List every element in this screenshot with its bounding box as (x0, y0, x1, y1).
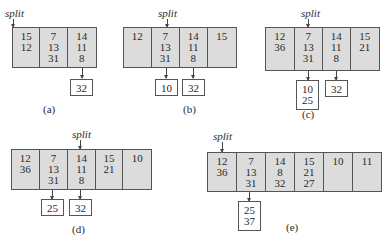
bucket-value: 31 (40, 53, 66, 64)
bucket-0: 12 (124, 28, 152, 67)
split-arrow-icon (13, 19, 14, 27)
bucket-array: 15 12 7 13 31 14 11 8 (12, 27, 97, 68)
bucket-4: 10 (123, 150, 151, 189)
bucket-2: 14 11 8 (68, 28, 96, 67)
bucket-3: 15 (208, 28, 236, 67)
caption-e: (e) (286, 221, 298, 233)
overflow-arrow-icon (52, 190, 53, 199)
overflow-bucket: 32 (325, 80, 348, 97)
split-arrow-icon (222, 142, 223, 152)
split-label: split (158, 8, 177, 19)
overflow-value: 37 (239, 216, 260, 227)
bucket-value (123, 175, 151, 186)
overflow-arrow-icon (336, 71, 337, 80)
bucket-value (353, 178, 381, 189)
bucket-value: 15 (208, 31, 236, 42)
overflow-value: 32 (71, 83, 92, 94)
bucket-2: 14 11 8 (68, 150, 96, 189)
bucket-0: 15 12 (13, 28, 40, 67)
bucket-value: 8 (323, 53, 350, 64)
bucket-value: 10 (123, 153, 151, 164)
overflow-arrow-icon (193, 68, 194, 78)
bucket-0: 12 36 (208, 153, 237, 191)
overflow-bucket: 32 (70, 79, 93, 96)
bucket-1: 7 13 31 (237, 153, 266, 191)
bucket-value (208, 178, 236, 189)
overflow-bucket: 10 25 (296, 80, 319, 110)
overflow-bucket: 32 (182, 79, 205, 96)
bucket-value (124, 53, 151, 64)
bucket-3: 15 21 (351, 28, 379, 70)
bucket-value: 31 (295, 53, 323, 64)
bucket-value (123, 164, 151, 175)
bucket-value: 8 (68, 53, 96, 64)
bucket-value: 8 (180, 53, 207, 64)
bucket-value (208, 42, 236, 53)
bucket-2: 14 11 8 (180, 28, 208, 67)
bucket-value: 21 (351, 42, 379, 53)
bucket-3: 15 21 27 (295, 153, 324, 191)
overflow-value: 32 (326, 84, 347, 95)
split-arrow-icon (167, 19, 168, 27)
bucket-value: 8 (68, 175, 95, 186)
bucket-array: 12 36 7 13 31 14 11 8 15 21 (265, 27, 380, 71)
overflow-bucket: 25 (41, 199, 64, 216)
overflow-bucket: 32 (69, 199, 92, 216)
bucket-value: 36 (208, 167, 236, 178)
bucket-value: 10 (324, 156, 352, 167)
bucket-array: 12 36 7 13 31 14 11 8 15 21 10 (11, 149, 152, 190)
bucket-5: 11 (353, 153, 381, 191)
overflow-bucket: 10 (155, 79, 178, 96)
bucket-array: 12 36 7 13 31 14 8 32 15 21 27 10 11 (207, 152, 382, 192)
overflow-value: 32 (70, 203, 91, 214)
bucket-2: 14 11 8 (323, 28, 351, 70)
bucket-array: 12 7 13 31 14 11 8 15 (123, 27, 237, 68)
bucket-3: 15 21 (96, 150, 124, 189)
bucket-4: 10 (324, 153, 353, 191)
split-arrow-icon (80, 140, 81, 149)
bucket-0: 12 36 (266, 28, 295, 70)
bucket-value: 27 (295, 178, 323, 189)
overflow-arrow-icon (80, 190, 81, 199)
split-arrow-icon (308, 19, 309, 27)
bucket-1: 7 13 31 (40, 150, 69, 189)
caption-a: (a) (43, 103, 55, 115)
overflow-arrow-icon (249, 192, 250, 201)
bucket-value: 21 (96, 164, 123, 175)
caption-c: (c) (302, 108, 314, 120)
bucket-value: 31 (152, 53, 180, 64)
bucket-value (124, 42, 151, 53)
overflow-arrow-icon (308, 71, 309, 80)
bucket-value: 36 (12, 164, 39, 175)
split-label: split (213, 131, 232, 142)
bucket-value: 12 (13, 42, 39, 53)
bucket-value (12, 175, 39, 186)
overflow-value: 10 (156, 83, 177, 94)
bucket-value (208, 53, 236, 64)
bucket-1: 7 13 31 (152, 28, 181, 67)
bucket-value: 11 (353, 156, 381, 167)
bucket-value (353, 167, 381, 178)
overflow-arrow-icon (82, 68, 83, 78)
split-label: split (5, 8, 24, 19)
bucket-value (351, 53, 379, 64)
bucket-value: 31 (40, 175, 68, 186)
overflow-bucket: 25 37 (238, 201, 261, 231)
bucket-1: 7 13 31 (40, 28, 67, 67)
caption-b: (b) (183, 103, 196, 115)
caption-d: (d) (72, 223, 85, 235)
overflow-value: 32 (183, 83, 204, 94)
bucket-value (13, 53, 39, 64)
bucket-value (324, 167, 352, 178)
bucket-value (96, 175, 123, 186)
bucket-1: 7 13 31 (295, 28, 324, 70)
overflow-value: 25 (297, 95, 318, 106)
bucket-value: 36 (266, 42, 294, 53)
bucket-value: 32 (266, 178, 294, 189)
overflow-arrow-icon (166, 68, 167, 78)
bucket-value: 12 (124, 31, 151, 42)
bucket-2: 14 8 32 (266, 153, 295, 191)
overflow-value: 25 (42, 203, 63, 214)
split-label: split (72, 129, 91, 140)
bucket-value (324, 178, 352, 189)
